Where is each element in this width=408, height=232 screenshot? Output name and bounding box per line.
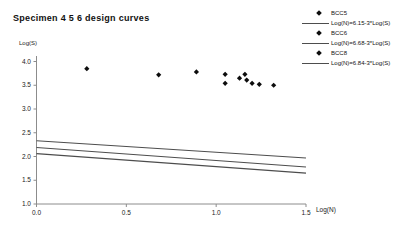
line-sample-icon [302, 63, 329, 64]
data-point-diamond [250, 81, 255, 86]
design-curve-line [37, 141, 307, 158]
x-axis-label: Log(N) [316, 206, 336, 213]
legend-item-bcc6: BCC6 [302, 28, 406, 38]
legend-label: BCC5 [331, 10, 347, 16]
line-sample-icon [302, 23, 329, 24]
data-point-diamond [242, 72, 247, 77]
y-tick-label: 2.5 [22, 129, 31, 136]
data-point-diamond [194, 69, 199, 74]
x-tick-label: 0.5 [122, 209, 131, 216]
legend: BCC5 Log(N)=6.15-3*Log(S) BCC6 Log(N)=6.… [302, 8, 406, 68]
y-tick-label: 1.5 [22, 176, 31, 183]
design-curve-line [37, 154, 307, 173]
legend-item-curve-668: Log(N)=6.68-3*Log(S) [302, 38, 406, 48]
line-sample-icon [302, 43, 329, 44]
data-point-diamond [244, 77, 249, 82]
legend-label: Log(N)=6.68-3*Log(S) [331, 40, 390, 46]
data-point-diamond [257, 82, 262, 87]
legend-item-curve-684: Log(N)=6.84-3*Log(S) [302, 58, 406, 68]
chart-figure: Specimen 4 5 6 design curves Log(S) 4.03… [0, 0, 408, 232]
data-point-diamond [237, 76, 242, 81]
diamond-marker-icon [316, 30, 322, 36]
design-curve-line [37, 147, 307, 166]
legend-label: BCC8 [331, 50, 347, 56]
data-point-diamond [156, 72, 161, 77]
data-point-diamond [84, 66, 89, 71]
data-point-diamond [223, 72, 228, 77]
data-point-diamond [223, 81, 228, 86]
y-tick-label: 3.5 [22, 81, 31, 88]
data-point-diamond [271, 83, 276, 88]
y-tick-label: 4.0 [22, 58, 31, 65]
diamond-marker-icon [316, 50, 322, 56]
y-tick-label: 1.0 [22, 200, 31, 207]
x-tick-label: 1.5 [301, 209, 310, 216]
legend-label: Log(N)=6.15-3*Log(S) [331, 20, 390, 26]
y-tick-label: 3.0 [22, 105, 31, 112]
legend-label: BCC6 [331, 30, 347, 36]
diamond-marker-icon [316, 10, 322, 16]
legend-item-bcc5: BCC5 [302, 8, 406, 18]
x-tick-label: 0.0 [32, 209, 41, 216]
x-tick-label: 1.0 [212, 209, 221, 216]
legend-item-curve-615: Log(N)=6.15-3*Log(S) [302, 18, 406, 28]
legend-item-bcc8: BCC8 [302, 48, 406, 58]
y-tick-label: 2.0 [22, 153, 31, 160]
legend-label: Log(N)=6.84-3*Log(S) [331, 60, 390, 66]
